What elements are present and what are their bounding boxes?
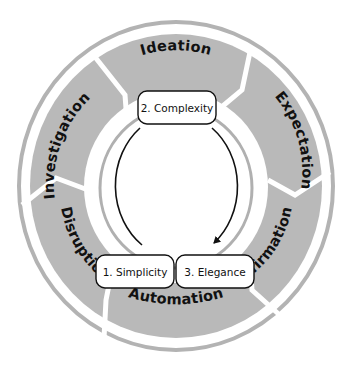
- svg-text:1. Simplicity: 1. Simplicity: [103, 266, 168, 278]
- cycle-diagram: Ideation Expectation Affirmation Automat…: [0, 0, 352, 370]
- box-simplicity: 1. Simplicity: [96, 255, 174, 288]
- svg-text:2. Complexity: 2. Complexity: [141, 102, 214, 114]
- svg-text:3. Elegance: 3. Elegance: [184, 266, 245, 278]
- box-complexity: 2. Complexity: [138, 91, 216, 124]
- box-elegance: 3. Elegance: [176, 255, 254, 288]
